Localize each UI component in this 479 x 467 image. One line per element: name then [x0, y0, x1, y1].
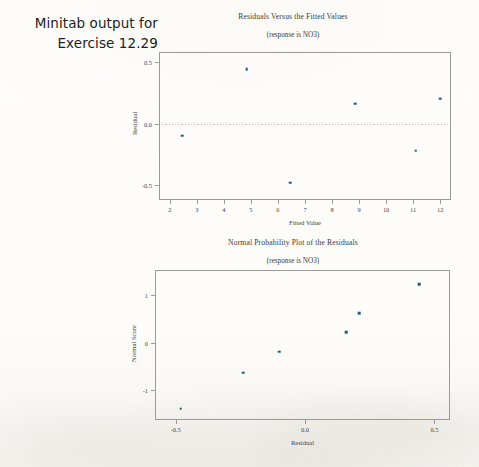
- x-axis-tick: [440, 200, 441, 204]
- y-axis-tick: [155, 185, 159, 186]
- x-axis-tick: [305, 420, 306, 424]
- chart-subtitle: (response is NO3): [118, 257, 468, 265]
- x-axis-tick-label: 7: [303, 206, 306, 213]
- zero-reference-line: [159, 124, 451, 125]
- x-axis-tick: [176, 420, 177, 424]
- data-point: [439, 98, 442, 101]
- x-axis-tick-label: -0.5: [171, 426, 181, 433]
- x-axis-tick: [251, 200, 252, 204]
- x-axis-tick-label: 5: [249, 206, 252, 213]
- x-axis-tick: [434, 420, 435, 424]
- y-axis-tick: [151, 343, 155, 344]
- x-axis-tick-label: 8: [330, 206, 333, 213]
- x-axis-tick: [170, 200, 171, 204]
- y-axis-tick: [151, 295, 155, 296]
- data-point: [418, 283, 421, 286]
- data-point: [289, 181, 292, 184]
- residuals-vs-fitted-chart: Residuals Versus the Fitted Values (resp…: [118, 12, 468, 234]
- data-point: [246, 68, 249, 71]
- chart-subtitle: (response is NO3): [118, 31, 468, 39]
- x-axis-title: Residual: [155, 439, 450, 446]
- data-point: [181, 135, 184, 138]
- data-point: [358, 312, 361, 315]
- y-axis-tick-label: 0.0: [125, 120, 152, 127]
- data-point: [180, 407, 183, 410]
- normal-probability-plot-chart: Normal Probability Plot of the Residuals…: [118, 238, 468, 463]
- y-axis-tick-label: 1: [121, 291, 148, 298]
- x-axis-tick: [197, 200, 198, 204]
- x-axis-tick: [413, 200, 414, 204]
- chart-title: Normal Probability Plot of the Residuals: [118, 238, 468, 247]
- x-axis-tick-label: 0.0: [301, 426, 309, 433]
- x-axis-tick: [224, 200, 225, 204]
- plot-area: [159, 52, 451, 200]
- x-axis-tick: [386, 200, 387, 204]
- plot-area: [155, 270, 450, 420]
- x-axis-tick-label: 4: [222, 206, 225, 213]
- x-axis-tick: [305, 200, 306, 204]
- x-axis-tick: [359, 200, 360, 204]
- data-point: [415, 149, 418, 152]
- x-axis-tick: [278, 200, 279, 204]
- x-axis-tick-label: 10: [383, 206, 389, 213]
- x-axis-tick-label: 12: [437, 206, 443, 213]
- x-axis-tick-label: 2: [168, 206, 171, 213]
- data-point: [278, 350, 281, 353]
- y-axis-tick: [151, 390, 155, 391]
- x-axis-tick-label: 3: [195, 206, 198, 213]
- data-point: [354, 103, 357, 106]
- data-point: [345, 331, 348, 334]
- x-axis-tick-label: 0.5: [430, 426, 438, 433]
- x-axis-tick: [332, 200, 333, 204]
- data-point: [242, 371, 245, 374]
- chart-title: Residuals Versus the Fitted Values: [118, 12, 468, 21]
- y-axis-tick-label: -0.5: [125, 182, 152, 189]
- x-axis-title: Fitted Value: [159, 219, 451, 226]
- x-axis-tick-label: 9: [357, 206, 360, 213]
- y-axis-tick-label: 0: [121, 339, 148, 346]
- x-axis-tick-label: 6: [276, 206, 279, 213]
- x-axis-tick-label: 11: [410, 206, 416, 213]
- y-axis-tick: [155, 62, 159, 63]
- y-axis-tick-label: 0.5: [125, 58, 152, 65]
- y-axis-tick-label: -1: [121, 387, 148, 394]
